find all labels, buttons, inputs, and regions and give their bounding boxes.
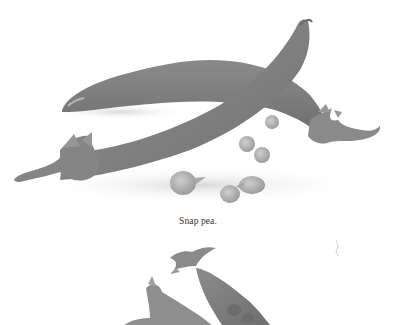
pea-pods-photo-partial xyxy=(0,240,396,325)
snap-pea-photo xyxy=(0,0,396,205)
figure-caption: Snap pea. xyxy=(0,216,396,226)
